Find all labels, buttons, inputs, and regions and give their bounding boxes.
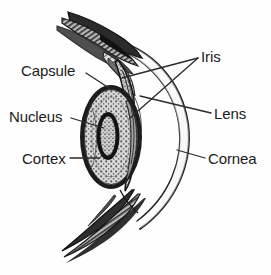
label-cortex: Cortex — [22, 151, 66, 167]
label-capsule: Capsule — [21, 63, 75, 79]
label-nucleus: Nucleus — [9, 109, 63, 125]
label-iris: Iris — [201, 49, 221, 65]
label-cornea: Cornea — [208, 151, 257, 167]
eye-anatomy-diagram: Capsule Nucleus Cortex Iris Lens Cornea — [0, 0, 271, 275]
label-lens: Lens — [214, 106, 246, 122]
eye-cross-section-illustration — [0, 0, 271, 275]
lens-nucleus-core — [101, 117, 116, 156]
